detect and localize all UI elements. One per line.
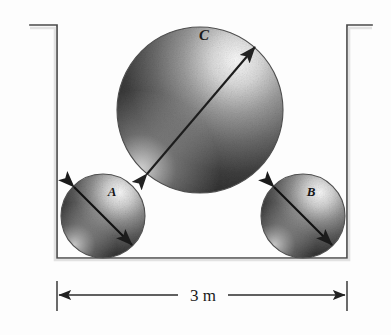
sphere-b-label: B (306, 184, 316, 199)
figure-canvas: C A B 3 m (0, 0, 391, 335)
sphere-a-label: A (107, 184, 117, 199)
sphere-a (61, 174, 145, 258)
sphere-c (117, 27, 283, 193)
sphere-c-bounce-light (117, 27, 283, 193)
sphere-c-label: C (199, 27, 210, 43)
sphere-b (261, 174, 345, 258)
dimension-label: 3 m (190, 286, 216, 305)
diagram-svg: C A B 3 m (0, 0, 391, 335)
